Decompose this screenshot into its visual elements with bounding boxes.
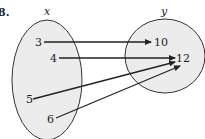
domain-element-3: 3 bbox=[35, 36, 42, 49]
range-element-12: 12 bbox=[176, 52, 190, 65]
range-ellipse bbox=[125, 19, 205, 93]
range-element-10: 10 bbox=[154, 36, 168, 49]
mapping-diagram: 8. x 3 4 5 6 y 10 12 bbox=[0, 0, 205, 139]
range-set: y 10 12 bbox=[125, 5, 205, 93]
domain-element-6: 6 bbox=[47, 113, 54, 126]
domain-element-4: 4 bbox=[50, 52, 57, 65]
domain-set: x 3 4 5 6 bbox=[12, 5, 82, 139]
domain-label: x bbox=[44, 5, 51, 18]
domain-element-5: 5 bbox=[26, 93, 33, 106]
problem-label: 8. bbox=[0, 6, 9, 19]
range-label: y bbox=[160, 5, 168, 18]
